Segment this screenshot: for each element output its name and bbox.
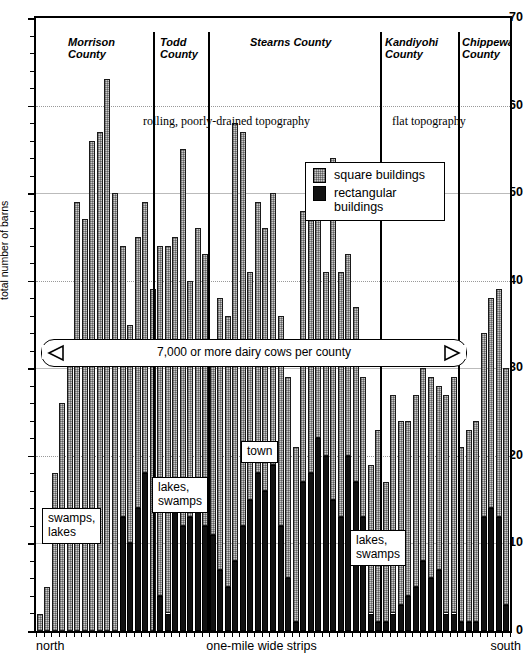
bar xyxy=(398,421,404,631)
bar-segment-rectangular xyxy=(308,473,314,631)
bar xyxy=(323,272,329,631)
bar-segment-square xyxy=(360,377,366,517)
bar-segment-rectangular xyxy=(315,438,321,631)
x-tick xyxy=(495,631,496,637)
x-tick xyxy=(254,631,255,637)
x-tick xyxy=(156,631,157,637)
bar-segment-rectangular xyxy=(225,587,231,631)
x-tick xyxy=(277,631,278,637)
x-tick xyxy=(44,631,45,637)
bar-segment-rectangular xyxy=(262,491,268,631)
bar xyxy=(413,395,419,631)
bar xyxy=(120,246,126,631)
bar xyxy=(300,211,306,631)
bar xyxy=(180,149,186,631)
bar-segment-square xyxy=(488,298,494,508)
bar-segment-rectangular xyxy=(338,517,344,631)
bar-segment-square xyxy=(67,360,73,631)
x-tick xyxy=(412,631,413,637)
arrow-right-icon xyxy=(442,343,462,363)
bar xyxy=(308,202,314,631)
bar xyxy=(451,377,457,631)
bar xyxy=(187,281,193,631)
x-tick xyxy=(224,631,225,637)
bar-segment-square xyxy=(398,421,404,605)
bar-segment-rectangular xyxy=(142,473,148,631)
bar xyxy=(390,395,396,631)
bar-segment-rectangular xyxy=(413,587,419,631)
dairy-cow-banner: 7,000 or more dairy cows per county xyxy=(41,339,467,367)
bar-segment-rectangular xyxy=(300,482,306,631)
x-axis-title: one-mile wide strips xyxy=(0,639,523,653)
annotation-callout: swamps, lakes xyxy=(42,508,101,544)
bar-segment-rectangular xyxy=(157,596,163,631)
bar xyxy=(255,202,261,631)
topography-note: rolling, poorly-drained topography xyxy=(143,114,310,129)
bar-segment-rectangular xyxy=(255,473,261,631)
bar xyxy=(420,368,426,631)
bar-segment-rectangular xyxy=(368,614,374,632)
x-tick xyxy=(239,631,240,637)
bar-segment-square xyxy=(52,473,58,631)
bar-segment-rectangular xyxy=(195,500,201,631)
x-tick xyxy=(314,631,315,637)
bar-segment-square xyxy=(420,368,426,561)
bar xyxy=(270,193,276,631)
x-tick xyxy=(299,631,300,637)
bar xyxy=(52,473,58,631)
x-tick xyxy=(405,631,406,637)
bar-segment-rectangular xyxy=(436,570,442,631)
bar-segment-rectangular xyxy=(383,622,389,631)
bar-segment-rectangular xyxy=(135,508,141,631)
bar xyxy=(496,289,502,631)
bar xyxy=(165,246,171,631)
x-tick xyxy=(81,631,82,637)
bar-segment-square xyxy=(142,202,148,473)
x-tick xyxy=(360,631,361,637)
bar-segment-square xyxy=(180,149,186,526)
bar-segment-rectangular xyxy=(398,605,404,631)
bar xyxy=(127,325,133,632)
bar-segment-rectangular xyxy=(420,561,426,631)
bar xyxy=(503,368,509,631)
bar xyxy=(172,237,178,631)
bar-segment-square xyxy=(390,395,396,614)
x-tick xyxy=(337,631,338,637)
x-tick xyxy=(217,631,218,637)
bar-segment-square xyxy=(165,246,171,614)
annotation-callout: town xyxy=(241,441,278,463)
x-tick xyxy=(487,631,488,637)
x-tick xyxy=(232,631,233,637)
x-tick xyxy=(96,631,97,637)
x-tick xyxy=(179,631,180,637)
bar-segment-square xyxy=(503,368,509,604)
bar-segment-rectangular xyxy=(278,526,284,631)
x-tick xyxy=(502,631,503,637)
x-tick xyxy=(442,631,443,637)
bar-segment-square xyxy=(481,333,487,517)
bar-segment-rectangular xyxy=(293,622,299,631)
bar-segment-rectangular xyxy=(240,526,246,631)
x-tick xyxy=(202,631,203,637)
bar xyxy=(315,202,321,631)
bar-segment-square xyxy=(443,395,449,614)
x-tick xyxy=(307,631,308,637)
bar-segment-rectangular xyxy=(180,526,186,631)
x-tick xyxy=(390,631,391,637)
bar-segment-square xyxy=(338,272,344,517)
bar-segment-square xyxy=(270,193,276,464)
county-name-label: Todd County xyxy=(160,36,198,61)
x-tick xyxy=(284,631,285,637)
bar xyxy=(262,228,268,631)
county-name-label: Morrison County xyxy=(68,36,115,61)
bar-segment-square xyxy=(285,377,291,578)
bar xyxy=(293,447,299,631)
bar-segment-rectangular xyxy=(247,500,253,631)
bar xyxy=(488,298,494,631)
x-tick xyxy=(457,631,458,637)
plot-area: Morrison CountyTodd CountyStearns County… xyxy=(34,16,512,633)
annotation-callout: lakes, swamps xyxy=(152,477,208,513)
bar xyxy=(89,141,95,631)
banner-label: 7,000 or more dairy cows per county xyxy=(42,345,466,359)
x-tick xyxy=(322,631,323,637)
